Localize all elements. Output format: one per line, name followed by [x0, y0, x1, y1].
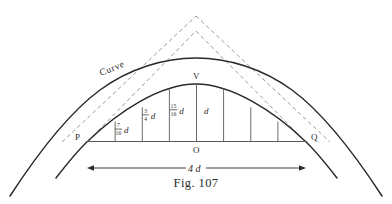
ordinate-label-3: 15 16 d	[170, 103, 185, 116]
ordinate-label-2: 3 4 d	[142, 108, 155, 121]
ordinate-3-numerator: 15	[171, 103, 177, 109]
ordinate-label-4: d	[204, 106, 209, 116]
outer-tangent-right-line	[196, 16, 330, 142]
figure-caption: Fig. 107	[0, 176, 392, 191]
ordinate-2-unit: d	[151, 111, 156, 121]
dimension-arrowhead-right	[299, 165, 306, 170]
ordinate-label-1: 7 16 d	[115, 122, 129, 135]
figure-page: P Q V O Curve 7 16 d 3 4 d 15 16 d d	[0, 0, 392, 204]
ordinate-1-numerator: 7	[117, 122, 120, 128]
label-p: P	[75, 132, 80, 142]
label-v: V	[193, 71, 200, 81]
ordinate-3-unit: d	[179, 106, 184, 116]
label-curve: Curve	[98, 59, 126, 78]
dimension-arrowhead-left	[87, 165, 94, 170]
ordinate-1-unit: d	[124, 125, 129, 135]
figure-drawing: P Q V O Curve 7 16 d 3 4 d 15 16 d d	[0, 0, 392, 204]
ordinate-2-numerator: 3	[144, 108, 147, 114]
label-o: O	[193, 145, 200, 155]
ordinate-lines	[115, 84, 278, 142]
label-q: Q	[311, 132, 318, 142]
ordinate-1-denominator: 16	[116, 130, 122, 136]
dimension-4d: 4 d	[87, 163, 306, 174]
dimension-label-unit: d	[196, 163, 202, 174]
ordinate-2-denominator: 4	[144, 116, 147, 122]
outer-tangent-left-line	[62, 16, 196, 142]
dimension-label-value: 4	[188, 163, 193, 174]
ordinate-3-denominator: 16	[171, 111, 177, 117]
